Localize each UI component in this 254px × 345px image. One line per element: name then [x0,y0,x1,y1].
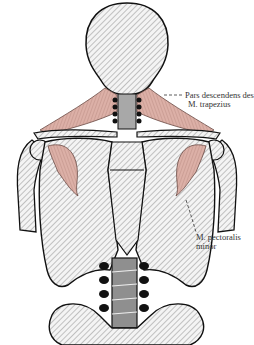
cervical-spine [118,94,136,129]
pectoralis-label-line2: minor [196,242,241,251]
lumbar-spine [112,258,137,328]
head-shape [86,3,168,95]
pectoralis-label: M. pectoralis minor [196,233,241,251]
trapezius-label: Pars descendens des M. trapezius [185,91,254,109]
trapezius-left-icon [40,88,117,134]
trapezius-label-line2: M. trapezius [185,100,254,109]
anatomy-figure [0,0,254,345]
